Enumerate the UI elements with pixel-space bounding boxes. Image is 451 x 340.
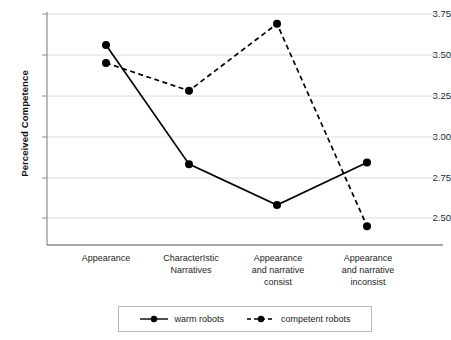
x-tick-line: and narrative (318, 264, 418, 276)
data-point (273, 20, 281, 28)
data-point (273, 201, 281, 209)
x-tick-line: inconsist (318, 276, 418, 288)
legend-key-dashed-icon (246, 314, 276, 324)
x-tick-label-2: CharacterIsticNarratives (141, 252, 241, 276)
data-point (102, 41, 110, 49)
legend-item-warm-robots: warm robots (139, 314, 224, 324)
chart-container: Perceived Competence 3.75 3.50 3.25 3.00… (0, 0, 451, 340)
data-point (102, 59, 110, 67)
x-tick-line: Narratives (141, 264, 241, 276)
x-tick-line: and narrative (228, 264, 328, 276)
legend-key-solid-icon (139, 314, 169, 324)
x-tick-label-4: Appearanceand narrativeinconsist (318, 252, 418, 288)
data-point (363, 222, 371, 230)
x-tick-line: Appearance (318, 252, 418, 264)
x-tick-line: CharacterIstic (141, 252, 241, 264)
data-series-layer (102, 20, 371, 230)
plot-area (0, 0, 451, 340)
data-point (185, 87, 193, 95)
data-point (363, 159, 371, 167)
legend: warm robots competent robots (118, 306, 372, 332)
x-tick-line: Appearance (228, 252, 328, 264)
legend-label-warm-robots: warm robots (174, 314, 224, 324)
legend-item-competent-robots: competent robots (246, 314, 351, 324)
series-line (106, 24, 367, 226)
legend-label-competent-robots: competent robots (281, 314, 351, 324)
series-line (106, 45, 367, 205)
series-competent-robots (102, 20, 371, 230)
data-point (185, 160, 193, 168)
series-warm-robots (102, 41, 371, 209)
x-tick-label-3: Appearanceand narrativeconsist (228, 252, 328, 288)
y-axis-ticks (42, 14, 47, 218)
x-tick-line: consist (228, 276, 328, 288)
